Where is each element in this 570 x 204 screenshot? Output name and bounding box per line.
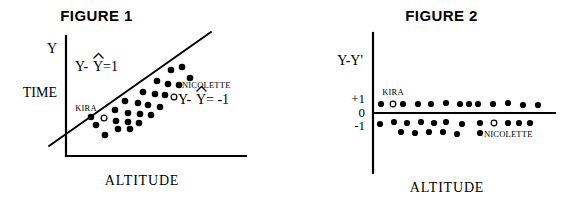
residual-pos-rhs: =1	[103, 59, 118, 74]
data-point	[145, 102, 152, 109]
figure-1-nicolette-label: NICOLETTE	[182, 80, 231, 90]
data-point	[122, 98, 129, 105]
figure-1-residual-positive-annotation: Y- Y =1	[75, 54, 118, 75]
figure-1-y-axis-label-top: Y	[47, 41, 57, 56]
figure-1-panel: FIGURE 1	[0, 0, 285, 204]
data-point	[459, 121, 465, 127]
data-point	[179, 64, 186, 71]
data-point	[412, 130, 418, 136]
data-point	[168, 67, 175, 74]
data-point	[400, 101, 406, 107]
data-point	[115, 126, 122, 133]
data-point	[378, 101, 384, 107]
residual-neg-rhs: = -1	[206, 92, 229, 107]
figure-1-chart: Y TIME ALTITUDE Y- Y =1 Y- Y = -1 KIRA N…	[0, 0, 285, 204]
data-point	[477, 130, 483, 136]
data-point	[466, 101, 472, 107]
data-point	[112, 107, 119, 114]
data-point	[140, 89, 147, 96]
figure-2-ytick-minus-one: -1	[354, 118, 365, 133]
figures-page: FIGURE 1	[0, 0, 570, 204]
data-point	[136, 120, 143, 127]
figure-2-points-positive	[378, 100, 541, 108]
data-point	[154, 78, 161, 85]
data-point	[148, 112, 155, 119]
data-point	[516, 120, 522, 126]
data-point	[377, 121, 383, 127]
data-point	[443, 119, 449, 125]
data-point	[454, 131, 460, 137]
data-point-nicolette	[171, 94, 177, 100]
data-point	[520, 102, 526, 108]
data-point	[431, 120, 437, 126]
data-point	[102, 132, 109, 139]
data-point	[127, 126, 134, 133]
data-point	[135, 100, 142, 107]
data-point	[157, 104, 164, 111]
data-point	[88, 114, 95, 121]
data-point	[505, 120, 511, 126]
data-point	[404, 120, 410, 126]
hat-caret-icon	[94, 54, 104, 59]
figure-1-y-axis-label: TIME	[23, 85, 57, 100]
figure-1-kira-label: KIRA	[75, 103, 97, 113]
figure-2-nicolette-label: NICOLETTE	[484, 129, 533, 139]
data-point	[535, 102, 541, 108]
data-point	[137, 111, 144, 118]
data-point	[162, 92, 169, 99]
data-point	[93, 122, 100, 129]
residual-neg-hat-var: Y	[196, 92, 206, 107]
figure-2-x-axis-label: ALTITUDE	[410, 180, 484, 195]
residual-neg-lhs: Y-	[178, 92, 192, 107]
data-point-kira	[390, 101, 396, 107]
data-point	[125, 119, 132, 126]
data-point	[490, 101, 496, 107]
figure-2-ytick-plus-one: +1	[351, 91, 365, 106]
figure-2-chart: Y-Y' +1 0 -1 ALTITUDE KIRA NICOLETTE	[285, 0, 570, 204]
data-point	[477, 120, 483, 126]
data-point	[443, 100, 449, 106]
data-point	[415, 101, 421, 107]
data-point	[505, 100, 511, 106]
data-point-kira	[101, 115, 107, 121]
figure-2-kira-label: KIRA	[382, 87, 404, 97]
data-point	[391, 119, 397, 125]
data-point	[152, 91, 159, 98]
data-point	[113, 118, 120, 125]
data-point	[428, 101, 434, 107]
data-point	[475, 101, 481, 107]
residual-pos-lhs: Y-	[75, 59, 89, 74]
data-point	[457, 101, 463, 107]
data-point	[426, 129, 432, 135]
figure-1-x-axis-label: ALTITUDE	[105, 173, 179, 188]
data-point	[440, 129, 446, 135]
figure-2-panel: FIGURE 2	[285, 0, 570, 204]
residual-pos-hat-var: Y	[93, 59, 103, 74]
data-point	[527, 120, 533, 126]
data-point	[418, 119, 424, 125]
data-point	[398, 129, 404, 135]
data-point	[165, 81, 172, 88]
data-point	[125, 110, 132, 117]
data-point-nicolette	[491, 120, 497, 126]
figure-2-y-axis-label: Y-Y'	[337, 53, 363, 68]
